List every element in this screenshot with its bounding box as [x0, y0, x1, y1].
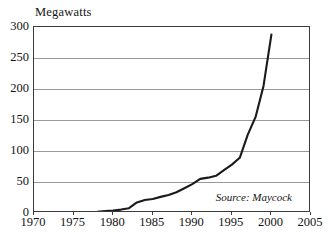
chart-container: Megawatts 300250200150100500 19701975198… — [0, 0, 330, 248]
x-axis-tick-labels: 19701975198019851990199520002005 — [0, 214, 330, 234]
x-axis-tick-label: 1980 — [90, 214, 134, 230]
plot-area — [33, 26, 310, 212]
series-line-world-photovoltaic-production — [34, 34, 271, 212]
y-axis-tick-label: 250 — [0, 51, 29, 64]
x-axis-tick-label: 2000 — [248, 214, 292, 230]
y-axis-tick-labels: 300250200150100500 — [0, 0, 29, 248]
x-axis-tick-label: 1970 — [11, 214, 55, 230]
source-annotation: Source: Maycock — [216, 191, 292, 203]
y-axis-tick-label: 300 — [0, 20, 29, 33]
y-axis-tick-label: 150 — [0, 113, 29, 126]
x-axis-tick-label: 1995 — [209, 214, 253, 230]
x-axis-tick-label: 1990 — [169, 214, 213, 230]
chart-axis-title: Megawatts — [35, 5, 92, 20]
y-axis-tick-label: 200 — [0, 82, 29, 95]
y-axis-tick-label: 100 — [0, 144, 29, 157]
y-axis-tick-label: 50 — [0, 175, 29, 188]
x-axis-tick-label: 1975 — [51, 214, 95, 230]
x-axis-tick-label: 1985 — [130, 214, 174, 230]
series-line-chart — [34, 27, 310, 212]
x-axis-tick-label: 2005 — [288, 214, 330, 230]
